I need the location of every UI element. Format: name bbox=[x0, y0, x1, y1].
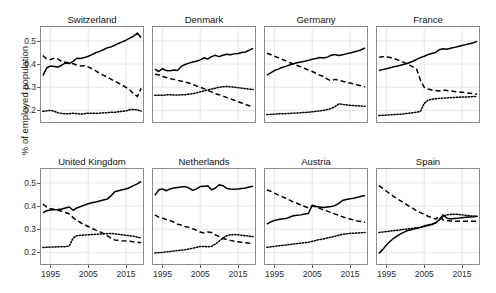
x-tick-label: 2005 bbox=[296, 269, 328, 279]
x-tick-mark bbox=[312, 265, 313, 268]
x-tick-label: 2015 bbox=[334, 269, 366, 279]
y-tick-mark bbox=[37, 252, 40, 253]
plot-area bbox=[264, 26, 368, 123]
x-tick-mark bbox=[274, 265, 275, 268]
facet-title: France bbox=[376, 14, 480, 25]
y-tick-label: 0.4 bbox=[12, 201, 36, 211]
y-tick-label: 0.5 bbox=[12, 36, 36, 46]
x-tick-mark bbox=[238, 265, 239, 268]
y-tick-mark bbox=[37, 64, 40, 65]
x-tick-label: 2005 bbox=[72, 269, 104, 279]
y-tick-label: 0.3 bbox=[12, 224, 36, 234]
x-tick-mark bbox=[386, 265, 387, 268]
y-tick-mark bbox=[37, 41, 40, 42]
x-tick-label: 1995 bbox=[258, 269, 290, 279]
x-tick-mark bbox=[462, 265, 463, 268]
plot-area bbox=[376, 26, 480, 123]
plot-area bbox=[376, 168, 480, 265]
facet-title: Germany bbox=[264, 14, 368, 25]
y-tick-mark bbox=[37, 183, 40, 184]
facet-title: United Kingdom bbox=[40, 156, 144, 167]
plot-area bbox=[152, 26, 256, 123]
x-tick-mark bbox=[200, 265, 201, 268]
y-tick-label: 0.4 bbox=[12, 59, 36, 69]
plot-area bbox=[40, 168, 144, 265]
y-tick-mark bbox=[37, 110, 40, 111]
plot-area bbox=[40, 26, 144, 123]
x-tick-label: 2005 bbox=[408, 269, 440, 279]
plot-area bbox=[264, 168, 368, 265]
x-tick-mark bbox=[126, 265, 127, 268]
x-tick-label: 1995 bbox=[146, 269, 178, 279]
y-tick-mark bbox=[37, 87, 40, 88]
x-tick-label: 2015 bbox=[110, 269, 142, 279]
y-tick-label: 0.5 bbox=[12, 178, 36, 188]
x-tick-mark bbox=[424, 265, 425, 268]
facet-title: Switzerland bbox=[40, 14, 144, 25]
y-tick-mark bbox=[37, 206, 40, 207]
x-tick-mark bbox=[350, 265, 351, 268]
plot-area bbox=[152, 168, 256, 265]
faceted-line-chart: % of employed population Switzerland0.20… bbox=[0, 0, 496, 293]
facet-title: Austria bbox=[264, 156, 368, 167]
x-tick-label: 1995 bbox=[34, 269, 66, 279]
x-tick-mark bbox=[50, 265, 51, 268]
y-tick-label: 0.3 bbox=[12, 82, 36, 92]
y-tick-label: 0.2 bbox=[12, 105, 36, 115]
facet-title: Denmark bbox=[152, 14, 256, 25]
facet-title: Spain bbox=[376, 156, 480, 167]
y-tick-label: 0.2 bbox=[12, 247, 36, 257]
x-tick-label: 1995 bbox=[370, 269, 402, 279]
x-tick-mark bbox=[162, 265, 163, 268]
y-tick-mark bbox=[37, 229, 40, 230]
x-tick-mark bbox=[88, 265, 89, 268]
x-tick-label: 2015 bbox=[222, 269, 254, 279]
x-tick-label: 2015 bbox=[446, 269, 478, 279]
x-tick-label: 2005 bbox=[184, 269, 216, 279]
facet-title: Netherlands bbox=[152, 156, 256, 167]
